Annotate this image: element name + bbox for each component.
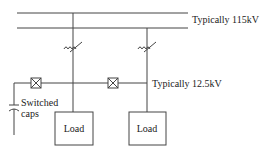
breaker-icon [31,78,41,88]
load-label-2: Load [137,123,158,134]
lv-bus-label: Typically 12.5kV [152,78,223,89]
load-label-1: Load [64,123,85,134]
hv-bus-label: Typically 115kV [192,14,260,25]
breaker-icon [108,78,118,88]
distribution-diagram: Typically 115kV Typically 12.5kV Switche… [0,0,266,157]
cap-label-line1: Switched [21,97,58,108]
cap-label-line2: caps [21,108,39,119]
